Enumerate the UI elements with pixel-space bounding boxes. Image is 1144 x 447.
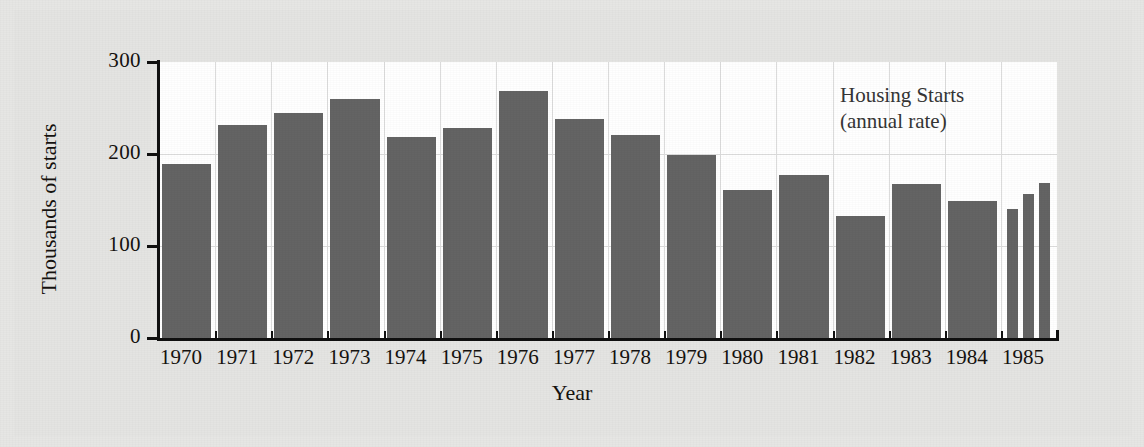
y-axis-line (157, 60, 160, 340)
x-axis-right-cap (1056, 330, 1059, 341)
x-tick-label-1974: 1974 (378, 345, 434, 370)
bar-1984 (948, 201, 997, 338)
y-tick-label-0: 0 (130, 324, 141, 349)
x-tick-1979 (664, 331, 666, 341)
gridline-x-1979 (664, 62, 665, 338)
gridline-x-1973 (327, 62, 328, 338)
bar-1973 (330, 99, 379, 338)
x-tick-1980 (720, 331, 722, 341)
bar-1985-Q1 (1007, 209, 1018, 338)
bar-1972 (274, 113, 323, 338)
bar-1980 (723, 190, 772, 338)
bar-1976 (499, 91, 548, 338)
x-tick-label-1980: 1980 (714, 345, 770, 370)
chart-annotation: Housing Starts (annual rate) (840, 82, 964, 134)
gridline-x-1974 (384, 62, 385, 338)
gridline-x-1972 (271, 62, 272, 338)
gridline-x-1971 (215, 62, 216, 338)
x-tick-label-1977: 1977 (546, 345, 602, 370)
bar-1970 (162, 164, 211, 338)
bar-1974 (387, 137, 436, 338)
x-tick-label-1984: 1984 (939, 345, 995, 370)
x-tick-label-1985: 1985 (995, 345, 1051, 370)
x-tick-1978 (608, 331, 610, 341)
x-tick-label-1970: 1970 (153, 345, 209, 370)
y-tick-label-100: 100 (108, 232, 141, 257)
bar-1983 (892, 184, 941, 338)
housing-starts-figure: 0100200300 19701971197219731974197519761… (0, 0, 1144, 447)
y-tick-label-300: 300 (108, 48, 141, 73)
x-tick-1985 (1001, 331, 1003, 341)
bar-1985-Q3 (1039, 183, 1050, 338)
x-tick-label-1973: 1973 (321, 345, 377, 370)
gridline-x-1982 (833, 62, 834, 338)
gridline-x-1976 (496, 62, 497, 338)
x-tick-1972 (271, 331, 273, 341)
x-tick-1973 (327, 331, 329, 341)
y-tick-100 (147, 245, 160, 248)
x-tick-1971 (215, 331, 217, 341)
bar-1982 (836, 216, 885, 338)
x-tick-label-1979: 1979 (658, 345, 714, 370)
x-tick-label-1972: 1972 (265, 345, 321, 370)
gridline-x-1981 (776, 62, 777, 338)
bar-1978 (611, 135, 660, 338)
x-tick-label-1981: 1981 (770, 345, 826, 370)
x-tick-1982 (833, 331, 835, 341)
bar-1981 (779, 175, 828, 338)
gridline-x-1977 (552, 62, 553, 338)
x-tick-1977 (552, 331, 554, 341)
annotation-line-1: Housing Starts (840, 82, 964, 108)
bar-1975 (443, 128, 492, 338)
x-axis-title: Year (0, 380, 1144, 406)
y-tick-300 (147, 61, 160, 64)
x-tick-1975 (440, 331, 442, 341)
x-tick-1981 (776, 331, 778, 341)
annotation-line-2: (annual rate) (840, 108, 964, 134)
x-tick-1983 (889, 331, 891, 341)
gridline-x-1985 (1001, 62, 1002, 338)
x-tick-label-1975: 1975 (434, 345, 490, 370)
x-tick-label-1983: 1983 (883, 345, 939, 370)
y-tick-200 (147, 153, 160, 156)
gridline-x-1975 (440, 62, 441, 338)
x-tick-label-1978: 1978 (602, 345, 658, 370)
bar-1971 (218, 125, 267, 338)
bar-1977 (555, 119, 604, 338)
bar-1979 (667, 155, 716, 338)
x-tick-1974 (384, 331, 386, 341)
y-axis-title: Thousands of starts (36, 99, 62, 319)
x-tick-1984 (945, 331, 947, 341)
x-tick-label-1982: 1982 (827, 345, 883, 370)
x-tick-label-1971: 1971 (209, 345, 265, 370)
y-tick-label-200: 200 (108, 140, 141, 165)
x-tick-label-1976: 1976 (490, 345, 546, 370)
gridline-x-1980 (720, 62, 721, 338)
y-tick-0 (147, 337, 160, 340)
x-tick-1976 (496, 331, 498, 341)
gridline-x-1978 (608, 62, 609, 338)
bar-1985-Q2 (1023, 194, 1034, 338)
